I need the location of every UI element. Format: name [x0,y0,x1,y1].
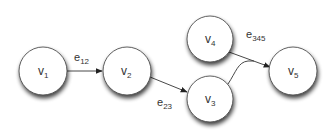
hypergraph-diagram: v1 v2 v4 v3 v5 e12 e23 e345 [0,0,333,137]
node-v1[interactable]: v1 [19,47,67,95]
edge-e12-label: e12 [74,51,90,66]
node-v4[interactable]: v4 [187,16,233,62]
edge-e23-line [150,77,187,92]
edge-e23 [150,77,187,92]
node-v2[interactable]: v2 [103,47,151,95]
edge-e345 [228,52,270,84]
edge-e345-label: e345 [246,28,266,43]
edge-e23-label: e23 [157,96,173,111]
edge-e345-branch-v4 [229,52,270,67]
node-v5[interactable]: v5 [269,47,317,95]
edge-e345-branch-v3 [228,61,254,84]
edges [67,52,270,92]
node-v3[interactable]: v3 [187,76,233,122]
